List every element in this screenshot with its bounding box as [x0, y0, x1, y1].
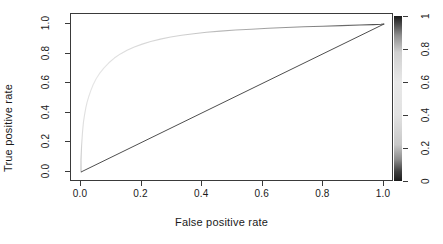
colorbar-tick: [403, 16, 408, 17]
x-tick-label: 0.8: [315, 188, 330, 199]
x-tick: [201, 181, 202, 186]
x-tick-label: 0.6: [255, 188, 270, 199]
plot-area: [70, 13, 393, 181]
y-tick: [65, 171, 70, 172]
colorbar-tick-label: 0: [420, 178, 431, 184]
y-axis-title: True positive rate: [2, 84, 14, 172]
y-tick-label: 0.4: [40, 105, 51, 120]
x-tick-label: 0.2: [133, 188, 148, 199]
x-tick: [383, 181, 384, 186]
colorbar-tick-label: 0.4: [420, 108, 431, 123]
colorbar-tick-label: 0.6: [420, 75, 431, 90]
colorbar-legend: [394, 16, 402, 181]
x-tick: [141, 181, 142, 186]
colorbar-tick: [403, 82, 408, 83]
y-tick-label: 1.0: [40, 16, 51, 31]
x-axis-title: False positive rate: [0, 216, 443, 228]
y-tick-label: 0.6: [40, 75, 51, 90]
colorbar-tick: [403, 49, 408, 50]
colorbar-tick: [403, 181, 408, 182]
y-tick-label: 0.0: [40, 164, 51, 179]
x-tick-label: 1.0: [376, 188, 391, 199]
x-tick: [322, 181, 323, 186]
y-tick: [65, 141, 70, 142]
x-tick: [80, 181, 81, 186]
colorbar-tick-label: 1: [420, 13, 431, 19]
y-tick-label: 0.2: [40, 134, 51, 149]
x-tick: [262, 181, 263, 186]
y-tick: [65, 53, 70, 54]
colorbar-tick: [403, 148, 408, 149]
x-tick-label: 0.0: [73, 188, 88, 199]
colorbar-tick-label: 0.8: [420, 42, 431, 57]
y-tick: [65, 23, 70, 24]
plot-canvas: [71, 14, 394, 182]
chance-diagonal-line: [81, 24, 384, 172]
roc-plot-figure: 0.00.20.40.60.81.0 0.00.20.40.60.81.0 00…: [0, 0, 443, 244]
y-tick: [65, 112, 70, 113]
x-tick-label: 0.4: [194, 188, 209, 199]
y-tick: [65, 82, 70, 83]
y-tick-label: 0.8: [40, 45, 51, 60]
colorbar-tick-label: 0.2: [420, 141, 431, 156]
colorbar-tick: [403, 115, 408, 116]
